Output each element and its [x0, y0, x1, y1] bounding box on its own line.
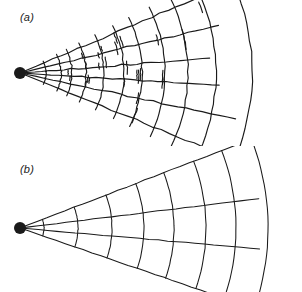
figure-root: (a) (b)	[0, 0, 302, 292]
panel-a-diagram	[0, 0, 302, 146]
panel-b-diagram	[0, 146, 302, 292]
